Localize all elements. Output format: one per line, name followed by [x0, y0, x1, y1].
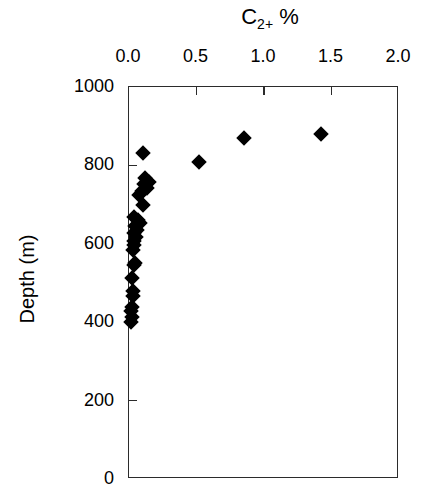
- plot-area: [128, 86, 398, 478]
- x-tick-label: 2.0: [375, 46, 421, 66]
- x-tick-label: 0.0: [105, 46, 151, 66]
- y-tick-label: 200: [42, 390, 114, 410]
- data-point-marker: [237, 130, 253, 146]
- chart-title: C2+ %: [200, 4, 340, 37]
- y-tick-label: 0: [42, 468, 114, 488]
- chart-title-subscript: 2+: [257, 16, 273, 32]
- x-tick-mark: [196, 87, 197, 95]
- x-tick-label: 1.5: [308, 46, 354, 66]
- data-point-marker: [313, 126, 329, 142]
- y-tick-label: 600: [42, 233, 114, 253]
- x-tick-label: 1.0: [240, 46, 286, 66]
- chart-title-base: C: [241, 4, 257, 29]
- y-tick-label: 800: [42, 154, 114, 174]
- y-tick-label: 400: [42, 311, 114, 331]
- y-tick-mark: [129, 165, 137, 166]
- y-tick-mark: [129, 400, 137, 401]
- data-point-marker: [191, 154, 207, 170]
- y-axis-label: Depth (m): [16, 204, 38, 354]
- chart-title-unit: %: [279, 4, 299, 29]
- chart-figure: C2+ % Depth (m) 0.00.51.01.52.0 02004006…: [0, 0, 423, 496]
- x-tick-label: 0.5: [173, 46, 219, 66]
- y-tick-label: 1000: [42, 76, 114, 96]
- data-point-marker: [135, 145, 151, 161]
- x-tick-mark: [331, 87, 332, 95]
- x-tick-mark: [263, 87, 264, 95]
- data-point-marker: [124, 271, 140, 287]
